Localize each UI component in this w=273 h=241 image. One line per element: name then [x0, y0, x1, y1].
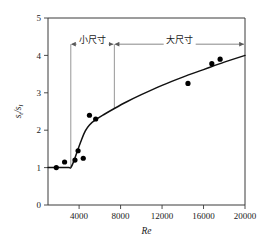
data-point	[54, 165, 59, 170]
y-axis-title: st/sl	[13, 104, 24, 118]
data-point	[93, 116, 98, 121]
y-tick-label: 3	[37, 88, 42, 98]
y-tick-label: 2	[37, 125, 42, 135]
y-axis: 012345	[37, 13, 49, 210]
data-points	[54, 57, 223, 171]
chart-figure: 01234540008000120001600020000Rest/sl小尺寸大…	[0, 0, 273, 241]
data-point	[62, 159, 67, 164]
y-tick-label: 4	[37, 51, 42, 61]
x-tick-label: 20000	[234, 211, 257, 221]
chart-canvas: 01234540008000120001600020000Rest/sl小尺寸大…	[0, 0, 273, 241]
x-tick-label: 12000	[151, 211, 174, 221]
y-tick-label: 0	[37, 200, 42, 210]
span-annotations: 小尺寸大尺寸	[72, 34, 244, 47]
data-point	[87, 113, 92, 118]
x-axis-title: Re	[140, 226, 151, 236]
y-tick-label: 1	[37, 163, 42, 173]
y-tick-label: 5	[37, 13, 42, 23]
span-label: 小尺寸	[79, 34, 106, 45]
data-point	[185, 81, 190, 86]
small-size-span: 小尺寸	[72, 34, 114, 47]
data-point	[209, 61, 214, 66]
x-tick-label: 16000	[192, 211, 215, 221]
data-point	[218, 57, 223, 62]
data-point	[72, 158, 77, 163]
large-size-span: 大尺寸	[115, 34, 244, 47]
y-axis-title-text: st/sl	[13, 104, 24, 118]
span-label: 大尺寸	[166, 34, 193, 45]
x-tick-label: 4000	[70, 211, 89, 221]
data-point	[81, 156, 86, 161]
data-point	[75, 148, 80, 153]
x-axis: 40008000120001600020000	[70, 205, 257, 221]
x-tick-label: 8000	[112, 211, 131, 221]
